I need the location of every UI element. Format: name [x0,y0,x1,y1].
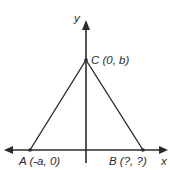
point-c [84,58,88,62]
point-b-label: B (?, ?) [109,155,147,167]
coordinate-diagram: y x C (0, b) A (-a, 0) B (?, ?) [0,0,170,170]
y-axis-label: y [73,12,81,24]
y-axis [82,20,90,163]
x-axis-label: x [160,155,168,167]
point-b [141,148,145,152]
y-axis-up-arrow-icon [82,20,90,30]
segment-ac [30,60,86,150]
point-a-label: A (-a, 0) [18,155,60,167]
x-axis-left-arrow-icon [4,146,13,154]
x-axis-right-arrow-icon [159,146,168,154]
point-c-label: C (0, b) [91,54,130,66]
segment-cb [86,60,143,150]
point-a [28,148,32,152]
